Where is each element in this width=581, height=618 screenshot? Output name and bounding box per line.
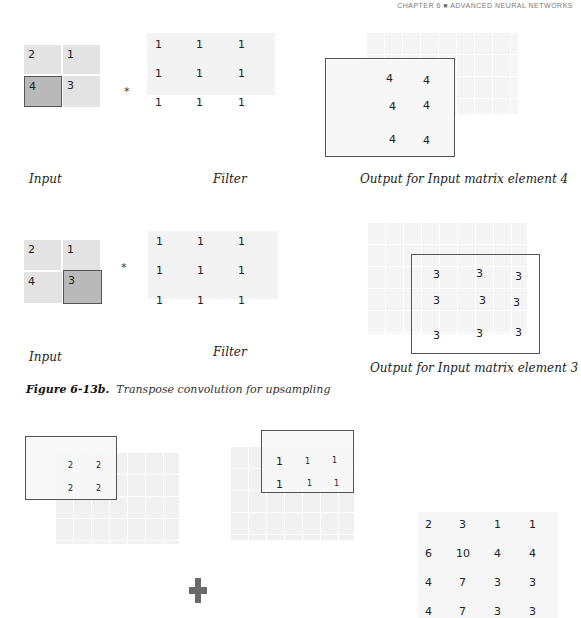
output-label: Output for Input matrix element 4 [360, 172, 568, 186]
result-value: 7 [459, 576, 466, 589]
overlay-value: 1 [332, 456, 337, 465]
overlay-value: 1 [276, 478, 283, 491]
overlay-value: 2 [96, 484, 101, 493]
input-cell: 4 [24, 272, 62, 303]
overlay-value: 1 [307, 479, 312, 488]
filter-value: 1 [238, 264, 245, 277]
result-value: 4 [425, 576, 432, 589]
result-value: 3 [529, 605, 536, 618]
output-value: 4 [423, 74, 430, 87]
figure-caption: Figure 6-13b. Transpose convolution for … [26, 383, 330, 396]
input-cell: 2 [24, 240, 61, 270]
output-value: 3 [433, 294, 440, 307]
filter-value: 1 [197, 264, 204, 277]
filter-value: 1 [196, 96, 203, 109]
filter-value: 1 [238, 96, 245, 109]
output-value: 3 [515, 270, 522, 283]
filter-value: 1 [196, 38, 203, 51]
filter-value: 1 [238, 38, 245, 51]
output-value: 3 [433, 268, 440, 281]
overlay-value: 1 [276, 455, 283, 468]
filter-value: 1 [238, 294, 245, 307]
result-value: 4 [494, 547, 501, 560]
result-value: 3 [494, 576, 501, 589]
result-value: 2 [425, 518, 432, 531]
output-label: Output for Input matrix element 3 [370, 361, 578, 375]
output-value: 3 [479, 294, 486, 307]
filter-value: 1 [238, 67, 245, 80]
filter-value: 1 [196, 67, 203, 80]
filter-value: 1 [156, 235, 163, 248]
filter-value: 1 [197, 294, 204, 307]
filter-value: 1 [156, 294, 163, 307]
output-value: 4 [389, 133, 396, 146]
result-value: 3 [529, 576, 536, 589]
overlay-value: 2 [68, 484, 73, 493]
filter-value: 1 [155, 38, 162, 51]
filter-value: 1 [155, 67, 162, 80]
output-value: 3 [515, 326, 522, 339]
overlay-value: 2 [96, 461, 101, 470]
output-value: 3 [476, 267, 483, 280]
figure-number: Figure 6-13b. [26, 383, 109, 396]
input-cell: 1 [63, 45, 100, 74]
output-value: 4 [423, 134, 430, 147]
running-head: CHAPTER 6 ■ ADVANCED NEURAL NETWORKS [397, 2, 573, 9]
output-value: 4 [386, 72, 393, 85]
result-value: 1 [494, 518, 501, 531]
result-value: 3 [459, 518, 466, 531]
output-value: 3 [433, 329, 440, 342]
convolution-operator: * [124, 85, 130, 98]
result-value: 3 [494, 605, 501, 618]
overlay-value: 1 [334, 479, 339, 488]
filter-value: 1 [156, 264, 163, 277]
input-cell: 3 [63, 76, 100, 107]
filter-value: 1 [155, 96, 162, 109]
result-value: 4 [425, 605, 432, 618]
convolution-operator: * [121, 261, 127, 274]
filter-label: Filter [213, 345, 247, 359]
input-cell: 1 [63, 240, 100, 270]
output-value: 3 [513, 296, 520, 309]
input-label: Input [29, 350, 62, 364]
filter-value: 1 [238, 235, 245, 248]
output-value: 4 [423, 99, 430, 112]
filter-value: 1 [197, 235, 204, 248]
result-value: 6 [425, 547, 432, 560]
result-value: 10 [456, 547, 470, 560]
result-value: 7 [459, 605, 466, 618]
input-cell-highlighted: 3 [63, 270, 102, 304]
result-value: 4 [529, 547, 536, 560]
figure-caption-text: Transpose convolution for upsampling [116, 383, 330, 396]
result-background [418, 512, 558, 618]
output-value: 3 [476, 327, 483, 340]
input-label: Input [29, 172, 62, 186]
input-cell: 2 [24, 45, 61, 74]
overlay-value: 1 [305, 457, 310, 466]
overlay-value: 2 [68, 461, 73, 470]
filter-background [147, 33, 275, 95]
filter-background [148, 231, 278, 299]
result-value: 1 [529, 518, 536, 531]
input-cell-highlighted: 4 [24, 76, 62, 107]
plus-icon [189, 578, 207, 603]
filter-label: Filter [213, 172, 247, 186]
output-value: 4 [389, 100, 396, 113]
